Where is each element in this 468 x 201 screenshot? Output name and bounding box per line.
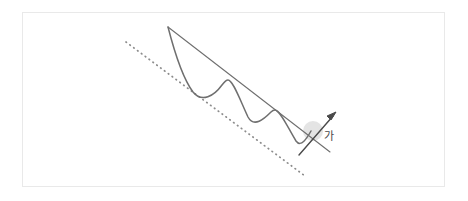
pattern-diagram-canvas: 가 bbox=[0, 0, 468, 201]
breakout-label: 가 bbox=[324, 130, 334, 143]
breakout-arrow-head bbox=[327, 112, 336, 120]
lower-trendline-support bbox=[126, 42, 305, 176]
price-action-wave bbox=[168, 27, 311, 143]
figure-screenshot: 가 bbox=[0, 0, 468, 201]
